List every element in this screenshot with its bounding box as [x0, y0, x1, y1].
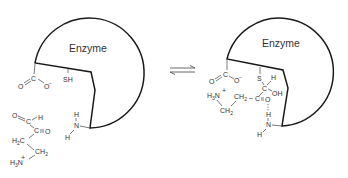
- left-amine-h-bottom: H: [65, 134, 70, 141]
- svg-text:+: +: [222, 87, 226, 94]
- substrate-ammonium: H3N +: [10, 154, 25, 168]
- left-amine-group: H N H: [65, 111, 90, 141]
- svg-text:CH2: CH2: [234, 93, 247, 102]
- left-thiol-label: SH: [63, 76, 73, 83]
- right-ch2-a: CH2: [234, 93, 247, 102]
- right-amine-n: N: [266, 121, 271, 128]
- substrate-ketone-o: O: [45, 128, 51, 135]
- right-enzyme-outline: [227, 18, 333, 126]
- right-ch2-b: CH2: [220, 107, 233, 116]
- right-amine-h-top: H: [266, 111, 271, 118]
- right-carboxylate-o1: O: [209, 78, 215, 85]
- equilibrium-arrows-icon: [170, 66, 195, 75]
- left-thiol-group: SH: [63, 69, 73, 83]
- right-thio-c: C: [262, 85, 267, 92]
- substrate-ch2-b: CH2: [35, 148, 48, 157]
- svg-text:H3N: H3N: [207, 92, 220, 101]
- left-carboxylate-c: C: [31, 75, 36, 82]
- right-carboxylate-group: C O O −: [209, 60, 242, 85]
- substrate-aldehyde-h: H: [38, 114, 43, 121]
- svg-text:CH2: CH2: [220, 107, 233, 116]
- right-thiohemiacetal: S C H OH: [257, 67, 283, 97]
- right-amine-group: H N H: [257, 104, 282, 138]
- svg-text:H2C: H2C: [12, 137, 25, 146]
- substrate-aldehyde-c: C: [26, 118, 31, 125]
- left-carboxylate-o1: O: [18, 83, 24, 90]
- right-ammonium: H3N +: [207, 87, 226, 101]
- right-sulfur: S: [257, 75, 262, 82]
- right-carboxylate-charge: −: [239, 74, 242, 80]
- right-keto-o: O: [265, 96, 271, 103]
- right-enzyme-label: Enzyme: [262, 37, 300, 49]
- left-enzyme-outline: [35, 18, 144, 128]
- left-enzyme: Enzyme: [35, 18, 144, 128]
- enzyme-reaction-diagram: Enzyme C O O − SH H N H O C H C O: [0, 0, 348, 178]
- right-enzyme: Enzyme: [227, 18, 333, 126]
- left-carboxylate-group: C O O −: [18, 64, 52, 90]
- left-enzyme-label: Enzyme: [69, 42, 107, 54]
- left-carboxylate-charge: −: [49, 80, 52, 86]
- right-h-on-c: H: [271, 74, 276, 81]
- right-hydroxyl: OH: [272, 90, 283, 97]
- right-dash: –: [249, 94, 253, 101]
- substrate-ketone-c: C: [34, 127, 39, 134]
- left-amine-h-top: H: [74, 111, 79, 118]
- svg-text:CH2: CH2: [35, 148, 48, 157]
- substrate-ch2-a: H2C: [12, 137, 25, 146]
- left-substrate: O C H C O H2C CH2 H3N +: [10, 112, 51, 168]
- right-carboxylate-c: C: [223, 71, 228, 78]
- svg-text:+: +: [21, 154, 25, 161]
- substrate-aldehyde-o: O: [12, 112, 18, 119]
- left-amine-n: N: [74, 122, 79, 129]
- right-amine-h-bottom: H: [257, 131, 262, 138]
- right-keto-c: C: [255, 95, 260, 102]
